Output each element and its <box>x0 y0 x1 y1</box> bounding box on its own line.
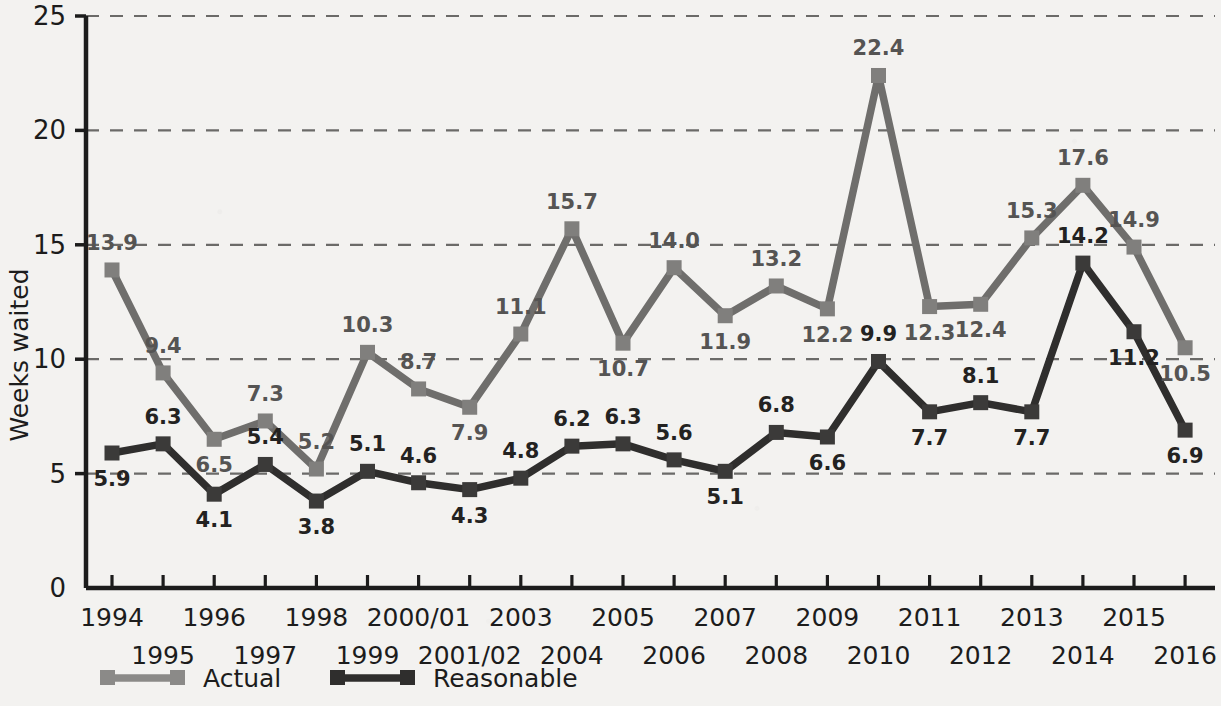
data-label: 5.4 <box>247 425 284 449</box>
data-label: 12.4 <box>955 318 1007 342</box>
data-label: 15.7 <box>546 190 598 214</box>
legend-label: Reasonable <box>433 664 578 693</box>
x-tick-label-1994: 1994 <box>80 603 144 632</box>
x-tick-label-2012: 2012 <box>949 641 1013 670</box>
x-tick-label-1996: 1996 <box>182 603 246 632</box>
data-marker <box>1075 178 1090 193</box>
data-marker <box>462 400 477 415</box>
data-label: 8.7 <box>400 350 437 374</box>
data-label: 7.3 <box>247 382 284 406</box>
data-label: 5.9 <box>93 467 130 491</box>
legend-label: Actual <box>203 664 281 693</box>
data-marker <box>1024 404 1039 419</box>
x-tick-label-2010: 2010 <box>847 641 911 670</box>
data-label: 5.1 <box>349 432 386 456</box>
data-marker <box>207 487 222 502</box>
x-tick-label-2013: 2013 <box>1000 603 1064 632</box>
data-marker <box>718 308 733 323</box>
data-label: 15.3 <box>1006 199 1058 223</box>
data-marker <box>871 68 886 83</box>
data-marker <box>1075 256 1090 271</box>
data-marker <box>411 475 426 490</box>
data-label: 14.9 <box>1108 208 1160 232</box>
data-label: 9.9 <box>860 322 897 346</box>
data-marker <box>564 439 579 454</box>
data-marker <box>513 471 528 486</box>
data-marker <box>105 262 120 277</box>
data-label: 22.4 <box>853 36 905 60</box>
data-marker <box>871 354 886 369</box>
data-marker <box>616 336 631 351</box>
data-marker <box>973 395 988 410</box>
data-label: 4.1 <box>196 508 233 532</box>
data-label: 8.1 <box>962 364 999 388</box>
y-tick-label-25: 25 <box>33 1 66 31</box>
data-label: 6.3 <box>604 405 641 429</box>
y-tick-label-10: 10 <box>33 344 66 374</box>
data-label: 5.1 <box>707 485 744 509</box>
data-label: 11.9 <box>699 330 751 354</box>
data-marker <box>820 429 835 444</box>
data-marker <box>360 464 375 479</box>
data-label: 17.6 <box>1057 146 1109 170</box>
data-label: 13.2 <box>750 247 802 271</box>
data-label: 12.2 <box>801 323 853 347</box>
data-marker <box>360 345 375 360</box>
data-label: 13.9 <box>86 231 138 255</box>
data-label: 5.2 <box>298 430 335 454</box>
data-label: 4.8 <box>502 439 539 463</box>
y-tick-label-5: 5 <box>49 459 66 489</box>
data-label: 11.1 <box>495 295 547 319</box>
data-marker <box>1127 324 1142 339</box>
legend-marker-right <box>400 670 415 685</box>
x-tick-label-1998: 1998 <box>285 603 349 632</box>
data-label: 10.5 <box>1159 362 1211 386</box>
data-marker <box>922 404 937 419</box>
chart-canvas: 0510152025 1994199519961997199819992000/… <box>0 0 1221 706</box>
y-axis-title: Weeks waited <box>5 268 34 441</box>
data-label: 6.2 <box>553 407 590 431</box>
y-tick-label-20: 20 <box>33 115 66 145</box>
data-marker <box>1127 240 1142 255</box>
data-marker <box>156 365 171 380</box>
data-marker <box>258 457 273 472</box>
data-label: 4.6 <box>400 444 437 468</box>
data-marker <box>1024 230 1039 245</box>
data-label: 12.3 <box>904 321 956 345</box>
data-label: 5.6 <box>655 421 692 445</box>
x-tick-label-2003: 2003 <box>489 603 553 632</box>
data-marker <box>462 482 477 497</box>
data-marker <box>769 278 784 293</box>
x-tick-label-2008: 2008 <box>744 641 808 670</box>
x-tick-label-1999: 1999 <box>336 641 400 670</box>
y-axis-title-text: Weeks waited <box>5 268 34 441</box>
x-tick-label-2005: 2005 <box>591 603 655 632</box>
data-marker <box>820 301 835 316</box>
x-tick-label-2015: 2015 <box>1102 603 1166 632</box>
data-label: 11.2 <box>1108 346 1160 370</box>
data-label: 4.3 <box>451 504 488 528</box>
data-label: 6.9 <box>1166 444 1203 468</box>
legend-marker-left <box>100 670 115 685</box>
legend-marker-left <box>330 670 345 685</box>
chart-background <box>0 0 1221 706</box>
data-marker <box>156 436 171 451</box>
data-marker <box>667 260 682 275</box>
data-marker <box>922 299 937 314</box>
data-marker <box>667 452 682 467</box>
data-label: 7.7 <box>911 426 948 450</box>
data-marker <box>513 327 528 342</box>
x-tick-label-2007: 2007 <box>693 603 757 632</box>
data-marker <box>973 297 988 312</box>
data-marker <box>564 221 579 236</box>
data-label: 14.2 <box>1057 224 1109 248</box>
data-marker <box>616 436 631 451</box>
data-label: 6.8 <box>758 393 795 417</box>
weeks-waited-line-chart: 0510152025 1994199519961997199819992000/… <box>0 0 1221 706</box>
y-tick-label-15: 15 <box>33 230 66 260</box>
x-tick-label-1995: 1995 <box>131 641 195 670</box>
x-tick-label-2009: 2009 <box>796 603 860 632</box>
data-marker <box>718 464 733 479</box>
data-marker <box>309 462 324 477</box>
data-marker <box>207 432 222 447</box>
